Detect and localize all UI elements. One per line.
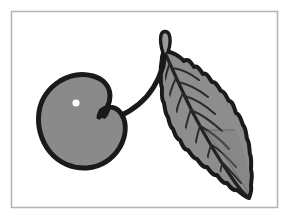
stem-tip bbox=[161, 31, 170, 53]
cherry-group bbox=[38, 75, 125, 168]
cherry-leaf-drawing bbox=[0, 0, 289, 223]
cherry-highlight bbox=[72, 99, 79, 106]
cherry-body bbox=[38, 75, 125, 168]
illustration-canvas: Cherry with Leaf Grayscale drawing of a … bbox=[0, 0, 289, 223]
leaf-group bbox=[161, 52, 252, 198]
